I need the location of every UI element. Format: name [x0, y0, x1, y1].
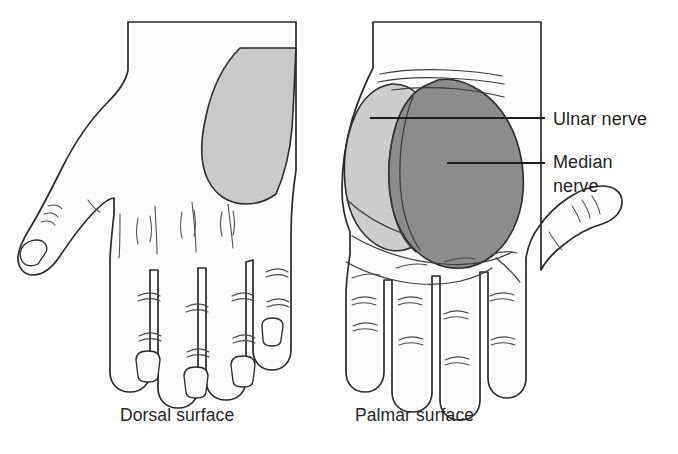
median-nerve-label-line1: Median [553, 152, 613, 172]
figure-root: Ulnar nerve Median nerve Dorsal surface … [0, 0, 678, 454]
palmar-surface-caption: Palmar surface [355, 405, 474, 425]
palmar-hand [342, 22, 622, 420]
median-nerve-label-line2: nerve [553, 176, 599, 196]
nerve-labels: Ulnar nerve Median nerve [553, 109, 647, 196]
hand-nerve-diagram: Ulnar nerve Median nerve Dorsal surface … [0, 0, 678, 454]
ulnar-nerve-label: Ulnar nerve [553, 109, 647, 129]
dorsal-nail-ring [231, 356, 255, 387]
dorsal-nail-middle [184, 367, 208, 398]
dorsal-nail-little [262, 318, 283, 346]
dorsal-nail-index [136, 351, 160, 382]
dorsal-surface-caption: Dorsal surface [120, 405, 234, 425]
dorsal-hand [18, 22, 296, 408]
figure-captions: Dorsal surface Palmar surface [120, 405, 474, 425]
